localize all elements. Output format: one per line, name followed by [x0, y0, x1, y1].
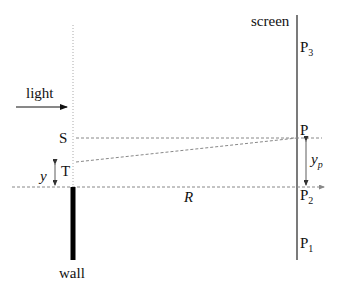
s-label: S: [59, 131, 67, 146]
p1-label: P1: [300, 236, 313, 254]
p3-label: P3: [300, 40, 313, 58]
yp-label: yp: [311, 152, 323, 170]
p2-label: P2: [300, 188, 313, 206]
p-label: P: [300, 123, 308, 138]
t-label: T: [61, 164, 70, 179]
wall-label: wall: [59, 266, 85, 281]
y-label: y: [40, 169, 47, 184]
diagram-canvas: [0, 0, 337, 288]
r-label: R: [184, 190, 193, 205]
t-to-p-ray: [76, 138, 297, 162]
screen-label: screen: [251, 14, 289, 29]
light-label: light: [26, 86, 54, 101]
